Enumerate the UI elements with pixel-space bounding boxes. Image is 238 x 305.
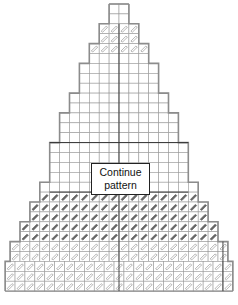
label-line-1: Continue — [92, 166, 149, 179]
label-line-2: pattern — [92, 179, 149, 192]
continue-pattern-label: Continue pattern — [91, 163, 150, 195]
stitch-chart — [0, 0, 238, 305]
